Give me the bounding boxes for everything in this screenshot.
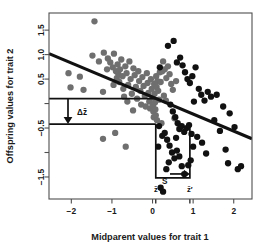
x-axis-tick-labels: −2−1012	[67, 206, 237, 216]
data-point	[126, 58, 132, 64]
data-point	[174, 59, 180, 65]
data-point	[172, 114, 178, 120]
data-point	[80, 87, 86, 93]
data-point	[217, 128, 223, 134]
data-point	[214, 92, 220, 98]
data-point	[173, 78, 179, 84]
data-point	[157, 64, 163, 70]
data-point	[182, 69, 188, 75]
data-point	[67, 84, 73, 90]
data-point	[129, 91, 135, 97]
data-point	[104, 66, 110, 72]
data-point	[144, 70, 150, 76]
data-point	[91, 18, 97, 24]
y-tick-label: 1.5	[36, 24, 46, 36]
z-bar-prime-label: z̄′	[187, 185, 193, 194]
x-tick-label: 2	[231, 206, 236, 216]
data-point	[220, 103, 226, 109]
data-point	[160, 58, 166, 64]
x-tick-label: −2	[67, 206, 77, 216]
data-point	[155, 88, 161, 94]
data-point	[111, 50, 117, 56]
data-point	[96, 58, 102, 64]
y-tick-label: 0.5	[36, 73, 46, 85]
y-axis-title: Offspring values for trait 2	[5, 49, 15, 164]
data-point	[198, 92, 204, 98]
data-point	[208, 94, 214, 100]
data-point	[174, 147, 180, 153]
data-point	[122, 63, 128, 69]
data-point	[89, 52, 95, 58]
x-tick-label: 1	[191, 206, 196, 216]
data-point	[189, 73, 195, 79]
data-point	[164, 137, 170, 143]
data-point	[179, 163, 185, 169]
data-point	[191, 98, 197, 104]
data-point	[77, 73, 83, 79]
figure-container: −2−1012 1.51.00.5−0.5−1.5 Δz̄ S z̄ z̄′ M…	[0, 0, 268, 250]
data-point	[166, 159, 172, 165]
data-point	[152, 106, 158, 112]
data-point	[238, 163, 244, 169]
data-point	[192, 64, 198, 70]
data-point	[199, 140, 205, 146]
data-point	[156, 123, 162, 129]
z-bar-label: z̄	[154, 185, 158, 194]
data-point	[165, 63, 171, 69]
data-point	[65, 70, 71, 76]
x-tick-label: −1	[107, 206, 117, 216]
data-point	[190, 143, 196, 149]
data-point	[222, 146, 228, 152]
data-point	[118, 56, 124, 62]
y-tick-label: 1.0	[36, 48, 46, 60]
data-point	[170, 38, 176, 44]
data-point	[165, 43, 171, 49]
scatter-plot: −2−1012 1.51.00.5−0.5−1.5 Δz̄ S z̄ z̄′ M…	[0, 0, 268, 250]
data-point	[170, 87, 176, 93]
y-tick-label: −0.5	[36, 119, 46, 136]
data-point	[173, 135, 179, 141]
data-point	[130, 107, 136, 113]
delta-z-label: Δz̄	[77, 108, 87, 117]
data-point	[196, 86, 202, 92]
data-point	[100, 136, 106, 142]
data-point	[187, 80, 193, 86]
data-point	[101, 50, 107, 56]
data-point	[201, 97, 207, 103]
y-tick-label: −1.5	[36, 168, 46, 185]
x-axis-title: Midparent values for trait 1	[91, 232, 208, 242]
data-point	[170, 108, 176, 114]
data-point	[166, 71, 172, 77]
data-point	[123, 70, 129, 76]
x-tick-label: 0	[150, 206, 155, 216]
data-point	[159, 133, 165, 139]
data-point	[176, 153, 182, 159]
data-point	[163, 166, 169, 172]
data-point	[227, 110, 233, 116]
data-point	[225, 160, 231, 166]
x-axis-ticks	[71, 199, 233, 204]
y-axis-tick-labels: 1.51.00.5−0.5−1.5	[36, 24, 46, 185]
data-point	[123, 143, 129, 149]
data-point	[112, 130, 118, 136]
data-point	[194, 134, 200, 140]
data-point	[117, 66, 123, 72]
s-label: S	[162, 177, 168, 186]
data-point	[166, 143, 172, 149]
data-point	[135, 68, 141, 74]
data-point	[179, 62, 185, 68]
data-point	[158, 79, 164, 85]
data-point	[203, 150, 209, 156]
data-point	[100, 89, 106, 95]
